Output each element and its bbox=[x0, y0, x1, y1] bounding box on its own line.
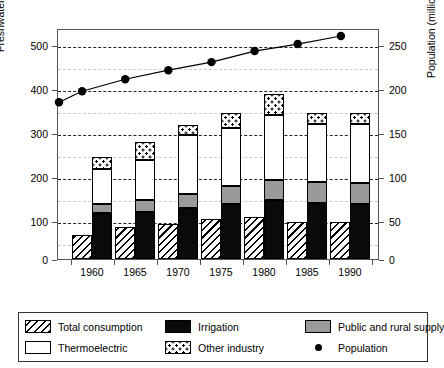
dot-marker-icon bbox=[305, 341, 331, 354]
y-axis-right-tickmark bbox=[379, 90, 384, 91]
y-axis-right-tick: 50 bbox=[389, 217, 425, 227]
x-axis-tickmark bbox=[200, 260, 201, 265]
black-swatch-icon bbox=[165, 320, 191, 333]
y-axis-right-tickmark bbox=[379, 178, 384, 179]
population-marker bbox=[250, 47, 258, 55]
gray-swatch-icon bbox=[305, 320, 331, 333]
y-axis-right-tick: 150 bbox=[389, 129, 425, 139]
y-axis-left-label: Freshwater withdrawals (billion gallons/… bbox=[0, 0, 6, 52]
x-axis-tick-1985: 1985 bbox=[287, 266, 327, 278]
population-marker bbox=[164, 66, 172, 74]
legend-item-other-industry: Other industry bbox=[165, 341, 305, 354]
y-axis-right-tickmark bbox=[379, 222, 384, 223]
y-axis-right-tickmark bbox=[379, 260, 384, 261]
x-axis-tickmark bbox=[243, 260, 244, 265]
population-marker bbox=[55, 98, 63, 106]
white-swatch-icon bbox=[25, 341, 51, 354]
population-marker bbox=[121, 75, 129, 83]
y-axis-left-tick: 300 bbox=[14, 129, 48, 139]
legend-label: Other industry bbox=[198, 342, 264, 354]
y-axis-right-tick: 0 bbox=[389, 255, 425, 265]
x-axis-tick-1990: 1990 bbox=[330, 266, 370, 278]
legend-label: Irrigation bbox=[198, 321, 239, 333]
x-axis-tick-1975: 1975 bbox=[201, 266, 241, 278]
legend: Total consumption Irrigation Public and … bbox=[18, 312, 428, 362]
plot-area bbox=[57, 29, 379, 260]
y-axis-left-tick: 0 bbox=[14, 255, 48, 265]
hatch-swatch-icon bbox=[25, 320, 51, 333]
x-axis-tick-1965: 1965 bbox=[115, 266, 155, 278]
population-marker bbox=[207, 58, 215, 66]
x-axis-tick-1980: 1980 bbox=[244, 266, 284, 278]
x-axis-tickmark bbox=[157, 260, 158, 265]
y-axis-left-tick: 400 bbox=[14, 85, 48, 95]
x-axis-tickmark bbox=[71, 260, 72, 265]
legend-label: Public and rural supply bbox=[338, 321, 444, 333]
dotted-swatch-icon bbox=[165, 341, 191, 354]
x-axis-tickmark bbox=[286, 260, 287, 265]
legend-label: Thermoelectric bbox=[58, 342, 127, 354]
population-line-series bbox=[58, 30, 378, 259]
x-axis-tickmark bbox=[114, 260, 115, 265]
x-axis-tickmark bbox=[329, 260, 330, 265]
y-axis-right-label: Population (millions) bbox=[425, 0, 437, 78]
y-axis-right-tick: 250 bbox=[389, 41, 425, 51]
y-axis-left-tick: 200 bbox=[14, 173, 48, 183]
y-axis-right-tickmark bbox=[379, 134, 384, 135]
y-axis-right-tick: 100 bbox=[389, 173, 425, 183]
y-axis-left-tickmark bbox=[52, 260, 57, 261]
population-marker bbox=[294, 40, 302, 48]
y-axis-left-tick: 500 bbox=[14, 41, 48, 51]
y-axis-right-tickmark bbox=[379, 46, 384, 47]
y-axis-left-tick: 100 bbox=[14, 217, 48, 227]
population-marker bbox=[337, 32, 345, 40]
legend-label: Population bbox=[338, 342, 388, 354]
population-marker bbox=[78, 87, 86, 95]
x-axis-tickmark bbox=[372, 260, 373, 265]
x-axis-tick-1970: 1970 bbox=[158, 266, 198, 278]
legend-label: Total consumption bbox=[58, 321, 143, 333]
legend-item-population: Population bbox=[305, 341, 435, 354]
legend-item-irrigation: Irrigation bbox=[165, 320, 305, 333]
legend-item-public-and-rural-supply: Public and rural supply bbox=[305, 320, 435, 333]
legend-item-thermoelectric: Thermoelectric bbox=[25, 341, 165, 354]
x-axis-tick-1960: 1960 bbox=[72, 266, 112, 278]
y-axis-right-tick: 200 bbox=[389, 85, 425, 95]
legend-item-total-consumption: Total consumption bbox=[25, 320, 165, 333]
